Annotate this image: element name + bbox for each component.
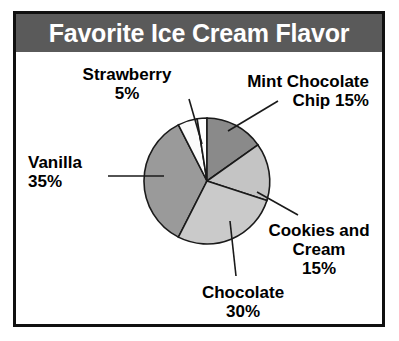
pie-label-cookies-and-cream-line-3: 15% (249, 259, 389, 278)
chart-frame: Favorite Ice Cream Flavor (13, 11, 385, 327)
pie-label-vanilla-line-2: 35% (28, 172, 120, 191)
pie-label-chocolate-line-2: 30% (166, 302, 320, 321)
pie-label-vanilla: Vanilla 35% (28, 153, 120, 191)
pie-label-strawberry-line-1: Strawberry (63, 65, 191, 84)
pie-label-vanilla-line-1: Vanilla (28, 153, 120, 172)
pie-label-cookies-and-cream: Cookies and Cream 15% (249, 221, 389, 278)
pie-label-cookies-and-cream-line-2: Cream (249, 240, 389, 259)
chart-title-banner: Favorite Ice Cream Flavor (16, 14, 382, 52)
pie-label-mint-chocolate-chip-line-1: Mint Chocolate (223, 72, 369, 91)
pie-label-cookies-and-cream-line-1: Cookies and (249, 221, 389, 240)
pie-chart-plot-area: Strawberry 5% Mint Chocolate Chip 15% Va… (16, 52, 382, 324)
pie-label-chocolate-line-1: Chocolate (166, 283, 320, 302)
pie-label-chocolate: Chocolate 30% (166, 283, 320, 321)
chart-title: Favorite Ice Cream Flavor (49, 21, 350, 46)
pie-label-mint-chocolate-chip-line-2: Chip 15% (223, 91, 369, 110)
pie-label-mint-chocolate-chip: Mint Chocolate Chip 15% (223, 72, 369, 110)
pie-label-strawberry-line-2: 5% (63, 84, 191, 103)
pie-label-strawberry: Strawberry 5% (63, 65, 191, 103)
